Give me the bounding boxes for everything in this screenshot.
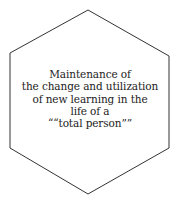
label-line-2: the change and utilization xyxy=(10,80,170,92)
label-line-4: life of a xyxy=(10,105,170,117)
label-line-3: of new learning in the xyxy=(10,93,170,105)
label-line-5: ““total person”” xyxy=(10,117,170,129)
hexagon-label: Maintenance of the change and utilizatio… xyxy=(10,68,170,129)
label-line-1: Maintenance of xyxy=(10,68,170,80)
